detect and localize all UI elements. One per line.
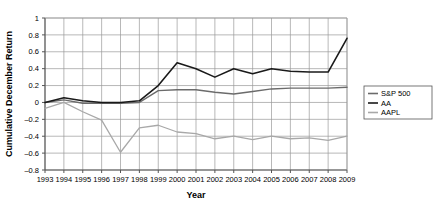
chart-legend: S&P 500AAAAPL (364, 86, 432, 119)
y-tick-label: 1 (35, 14, 39, 23)
chart-container: 10.80.60.40.20–0.2–0.4–0.6–0.8 199319941… (0, 0, 440, 220)
y-tick-label: –0.8 (24, 166, 39, 175)
y-tick-label: 0.4 (29, 64, 39, 73)
x-tick-label: 2005 (263, 175, 280, 184)
cumulative-december-return-line-chart: 10.80.60.40.20–0.2–0.4–0.6–0.8 199319941… (0, 0, 440, 220)
x-tick-label: 2000 (169, 175, 186, 184)
x-tick-label: 1995 (74, 175, 91, 184)
x-tick-label: 1999 (150, 175, 167, 184)
x-tick-label: 1996 (93, 175, 110, 184)
x-tick-label: 2007 (301, 175, 318, 184)
x-tick-label: 1998 (131, 175, 148, 184)
x-tick-label: 2009 (339, 175, 356, 184)
x-tick-label: 2002 (207, 175, 224, 184)
x-tick-label: 2008 (320, 175, 337, 184)
x-tick-label: 2003 (225, 175, 242, 184)
x-tick-label: 1993 (37, 175, 54, 184)
y-tick-label: 0.2 (29, 81, 39, 90)
y-tick-label: –0.2 (24, 115, 39, 124)
x-tick-label: 2001 (188, 175, 205, 184)
plot-area (42, 18, 347, 173)
legend-label: AA (381, 99, 391, 108)
y-tick-label: 0 (35, 98, 39, 107)
y-tick-label: –0.6 (24, 149, 39, 158)
legend-label: S&P 500 (381, 89, 410, 98)
x-tick-label: 2006 (282, 175, 299, 184)
y-tick-label: 0.6 (29, 47, 39, 56)
y-tick-label: –0.4 (24, 132, 39, 141)
legend-label: AAPL (381, 108, 400, 117)
x-axis-tick-labels: 1993199419951996199719981999200020012002… (37, 175, 356, 184)
x-axis-title: Year (186, 190, 206, 200)
y-axis-title: Cumulative December Return (4, 31, 14, 157)
y-tick-label: 0.8 (29, 31, 39, 40)
x-tick-label: 1997 (112, 175, 129, 184)
x-tick-label: 2004 (244, 175, 261, 184)
x-tick-label: 1994 (56, 175, 73, 184)
